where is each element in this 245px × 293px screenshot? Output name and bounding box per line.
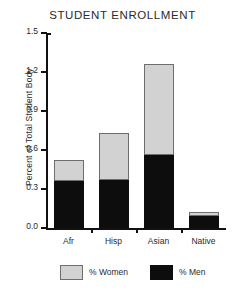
- y-axis-tick-label: 0.6: [26, 143, 38, 154]
- plot-area: 0.00.30.60.91.21.5AfrHispAsianNative: [46, 33, 226, 228]
- y-axis-label: Percent of Total Student Body: [24, 32, 34, 222]
- y-axis-tick: 0.3: [41, 188, 47, 190]
- y-axis-tick: 0.0: [41, 227, 47, 229]
- y-axis-tick: 0.9: [41, 110, 47, 112]
- y-axis-tick: 0.6: [41, 149, 47, 151]
- bar-segment-women-hisp[interactable]: [99, 133, 129, 180]
- bar-segment-men-asian[interactable]: [144, 155, 174, 228]
- bar-group-native[interactable]: [189, 212, 219, 228]
- bar-segment-women-afr[interactable]: [54, 160, 84, 181]
- x-axis-end-cap: [221, 228, 226, 230]
- bar-group-hisp[interactable]: [99, 133, 129, 228]
- y-axis-tick-label: 0.0: [26, 221, 38, 232]
- bar-segment-men-native[interactable]: [189, 216, 219, 228]
- bar-segment-men-hisp[interactable]: [99, 180, 129, 228]
- y-axis-top-cap: [46, 33, 51, 35]
- x-axis-tick: [181, 228, 183, 233]
- x-axis-tick: [91, 228, 93, 233]
- x-axis-tick: [136, 228, 138, 233]
- legend-item-men: % Men: [150, 262, 205, 282]
- chart-title: STUDENT ENROLLMENT: [0, 9, 245, 21]
- legend-label-men: % Men: [179, 267, 205, 277]
- x-axis-label-native: Native: [181, 236, 226, 246]
- legend-swatch-women-icon: [60, 265, 83, 280]
- x-axis-label-hisp: Hisp: [91, 236, 136, 246]
- y-axis-line: [46, 33, 48, 228]
- y-axis-tick-label: 0.9: [26, 104, 38, 115]
- legend-swatch-men-icon: [150, 265, 173, 280]
- y-axis-tick: 1.5: [41, 32, 47, 34]
- stacked-bar-chart: STUDENT ENROLLMENT Percent of Total Stud…: [0, 0, 245, 293]
- x-axis-label-asian: Asian: [136, 236, 181, 246]
- bar-segment-men-afr[interactable]: [54, 181, 84, 228]
- chart-legend: % Women % Men: [0, 262, 245, 286]
- y-axis-tick-label: 0.3: [26, 182, 38, 193]
- bar-group-afr[interactable]: [54, 160, 84, 228]
- x-axis-label-afr: Afr: [46, 236, 91, 246]
- y-axis-tick-label: 1.5: [26, 26, 38, 37]
- y-axis-tick-label: 1.2: [26, 65, 38, 76]
- legend-item-women: % Women: [60, 262, 128, 282]
- legend-label-women: % Women: [89, 267, 128, 277]
- y-axis-tick: 1.2: [41, 71, 47, 73]
- bar-group-asian[interactable]: [144, 64, 174, 228]
- bar-segment-women-asian[interactable]: [144, 64, 174, 155]
